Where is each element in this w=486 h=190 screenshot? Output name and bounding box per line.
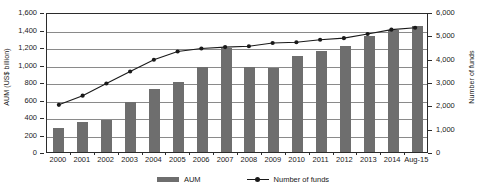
x-axis-tick-mark bbox=[70, 152, 71, 155]
line-marker bbox=[318, 38, 322, 42]
y-axis-left-tick-mark bbox=[40, 48, 44, 49]
x-axis-tick-mark bbox=[285, 152, 286, 155]
legend-label-aum: AUM bbox=[184, 175, 201, 184]
line-marker bbox=[199, 46, 203, 50]
x-axis-tick-mark bbox=[237, 152, 238, 155]
x-axis-tick-mark bbox=[309, 152, 310, 155]
line-marker-swatch-icon bbox=[247, 176, 269, 183]
x-axis-tick-mark bbox=[165, 152, 166, 155]
y-axis-left-tick-mark bbox=[40, 136, 44, 137]
y-axis-left-tick-label: 400 bbox=[24, 114, 37, 122]
x-axis-tick-label: 2007 bbox=[213, 155, 237, 165]
x-axis-tick-label: 2013 bbox=[356, 155, 380, 165]
x-axis: 2000200120022003200420052006200720082009… bbox=[46, 155, 428, 169]
y-axis-left-tick-mark bbox=[40, 153, 44, 154]
line-marker bbox=[271, 41, 275, 45]
y-axis-right-tick-label: 6,000 bbox=[436, 9, 455, 17]
y-axis-left-tick-label: 1,000 bbox=[18, 62, 37, 70]
x-axis-tick-mark bbox=[142, 152, 143, 155]
y-axis-left-tick-mark bbox=[40, 66, 44, 67]
line-series-number-of-funds bbox=[47, 14, 427, 152]
chart-figure: AUM (US$ billion) Number of funds 020040… bbox=[0, 0, 486, 190]
x-axis-tick-label: 2003 bbox=[118, 155, 142, 165]
x-axis-tick-mark bbox=[380, 152, 381, 155]
y-axis-right-tick-mark bbox=[428, 83, 432, 84]
y-axis-left-tick-label: 1,200 bbox=[18, 44, 37, 52]
y-axis-left-tick-mark bbox=[40, 83, 44, 84]
bar-swatch-icon bbox=[157, 177, 179, 182]
y-axis-left-tick-label: 600 bbox=[24, 97, 37, 105]
legend-item-aum: AUM bbox=[157, 175, 201, 184]
x-axis-tick-label: 2014 bbox=[380, 155, 404, 165]
y-axis-right-tick-label: 5,000 bbox=[436, 32, 455, 40]
y-axis-right-tick-label: 2,000 bbox=[436, 102, 455, 110]
y-axis-left-tick-label: 800 bbox=[24, 79, 37, 87]
x-axis-tick-label: 2006 bbox=[189, 155, 213, 165]
x-axis-tick-label: 2001 bbox=[70, 155, 94, 165]
y-axis-right-tick-mark bbox=[428, 13, 432, 14]
line-marker bbox=[223, 45, 227, 49]
line-marker bbox=[104, 81, 108, 85]
x-axis-tick-mark bbox=[94, 152, 95, 155]
y-axis-right-tick-mark bbox=[428, 153, 432, 154]
x-axis-tick-label: 2011 bbox=[309, 155, 333, 165]
x-axis-tick-mark bbox=[213, 152, 214, 155]
x-axis-tick-mark bbox=[356, 152, 357, 155]
y-axis-left: 02004006008001,0001,2001,4001,600 bbox=[0, 0, 44, 190]
x-axis-tick-label: 2002 bbox=[94, 155, 118, 165]
line-marker bbox=[57, 103, 61, 107]
legend-item-number-of-funds: Number of funds bbox=[247, 175, 329, 184]
plot-area bbox=[46, 13, 428, 153]
y-axis-left-tick-label: 1,400 bbox=[18, 27, 37, 35]
line-marker bbox=[247, 44, 251, 48]
line-path bbox=[59, 28, 415, 105]
y-axis-right: 01,0002,0003,0004,0005,0006,000 bbox=[428, 0, 470, 190]
x-axis-tick-label: Aug-15 bbox=[404, 155, 428, 165]
y-axis-left-tick-mark bbox=[40, 31, 44, 32]
y-axis-left-tick-label: 200 bbox=[24, 132, 37, 140]
line-marker bbox=[81, 94, 85, 98]
y-axis-right-tick-mark bbox=[428, 36, 432, 37]
line-marker bbox=[294, 40, 298, 44]
line-marker bbox=[128, 69, 132, 73]
y-axis-right-tick-label: 1,000 bbox=[436, 126, 455, 134]
y-axis-left-tick-label: 1,600 bbox=[18, 9, 37, 17]
line-marker bbox=[389, 28, 393, 32]
y-axis-right-tick-mark bbox=[428, 106, 432, 107]
x-axis-tick-mark bbox=[189, 152, 190, 155]
x-axis-tick-label: 2008 bbox=[237, 155, 261, 165]
x-axis-tick-mark bbox=[261, 152, 262, 155]
y-axis-left-tick-mark bbox=[40, 13, 44, 14]
y-axis-left-tick-mark bbox=[40, 101, 44, 102]
x-axis-tick-label: 2012 bbox=[333, 155, 357, 165]
line-marker bbox=[366, 32, 370, 36]
x-axis-tick-label: 2004 bbox=[142, 155, 166, 165]
line-marker bbox=[413, 26, 417, 30]
x-axis-tick-mark bbox=[333, 152, 334, 155]
x-axis-tick-label: 2010 bbox=[285, 155, 309, 165]
line-marker bbox=[152, 58, 156, 62]
line-marker bbox=[342, 36, 346, 40]
x-axis-tick-label: 2000 bbox=[46, 155, 70, 165]
y-axis-left-tick-mark bbox=[40, 118, 44, 119]
x-axis-tick-mark bbox=[118, 152, 119, 155]
x-axis-tick-label: 2005 bbox=[165, 155, 189, 165]
y-axis-right-tick-label: 0 bbox=[436, 149, 440, 157]
y-axis-right-tick-label: 3,000 bbox=[436, 79, 455, 87]
y-axis-left-tick-label: 0 bbox=[33, 149, 37, 157]
y-axis-right-tick-mark bbox=[428, 60, 432, 61]
line-marker bbox=[176, 49, 180, 53]
x-axis-tick-label: 2009 bbox=[261, 155, 285, 165]
y-axis-right-tick-label: 4,000 bbox=[436, 56, 455, 64]
x-axis-tick-mark bbox=[404, 152, 405, 155]
legend-label-number-of-funds: Number of funds bbox=[274, 175, 329, 184]
y-axis-right-tick-mark bbox=[428, 130, 432, 131]
chart-legend: AUM Number of funds bbox=[0, 172, 486, 186]
